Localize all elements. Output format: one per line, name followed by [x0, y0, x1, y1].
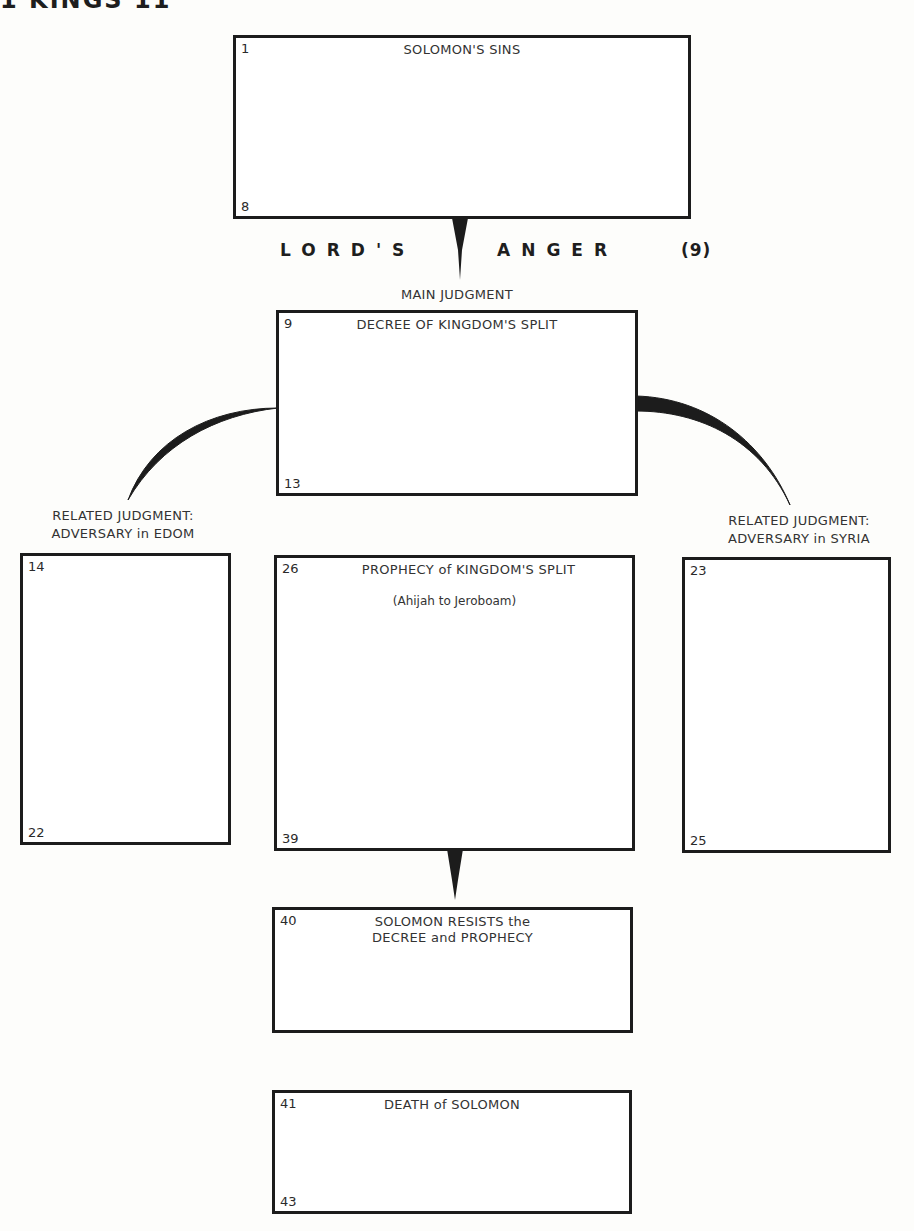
- label-line: RELATED JUDGMENT:: [18, 507, 228, 525]
- box-solomon-resists: 40 SOLOMON RESISTS the DECREE and PROPHE…: [272, 907, 633, 1033]
- box-solomons-sins: 1 SOLOMON'S SINS 8: [233, 35, 691, 219]
- verse-end: 43: [280, 1194, 297, 1209]
- box-title-line: SOLOMON RESISTS the: [275, 914, 630, 930]
- left-curve-arrow: [128, 393, 278, 500]
- label-related-judgment-edom: RELATED JUDGMENT: ADVERSARY in EDOM: [18, 507, 228, 543]
- box-title: DECREE OF KINGDOM'S SPLIT: [279, 317, 635, 332]
- label-line: RELATED JUDGMENT:: [694, 512, 904, 530]
- box-title: DEATH of SOLOMON: [275, 1097, 629, 1112]
- box-subtitle: (Ahijah to Jeroboam): [277, 594, 632, 608]
- box-prophecy-kingdom-split: 26 PROPHECY of KINGDOM'S SPLIT (Ahijah t…: [274, 555, 635, 851]
- right-curve-arrow: [636, 396, 790, 505]
- box-decree-kingdom-split: 9 DECREE OF KINGDOM'S SPLIT 13: [276, 310, 638, 496]
- label-line: ADVERSARY in SYRIA: [694, 530, 904, 548]
- box-adversary-syria: 23 25: [682, 557, 891, 853]
- box-death-of-solomon: 41 DEATH of SOLOMON 43: [272, 1090, 632, 1214]
- verse-end: 13: [284, 476, 301, 491]
- box-adversary-edom: 14 22: [20, 553, 231, 845]
- connector-word-anger: ANGER: [497, 240, 618, 260]
- verse-start: 26: [282, 561, 299, 576]
- label-related-judgment-syria: RELATED JUDGMENT: ADVERSARY in SYRIA: [694, 512, 904, 548]
- verse-end: 25: [690, 833, 707, 848]
- connector-verse-ref: (9): [681, 240, 711, 260]
- verse-end: 8: [241, 199, 249, 214]
- box-title-line: DECREE and PROPHECY: [275, 930, 630, 946]
- down-wedge-arrow-1: [452, 218, 468, 280]
- connector-word-lords: LORD'S: [280, 240, 415, 260]
- box-title: SOLOMON RESISTS the DECREE and PROPHECY: [275, 914, 630, 946]
- verse-start: 14: [28, 559, 45, 574]
- label-main-judgment: MAIN JUDGMENT: [276, 286, 638, 304]
- verse-start: 23: [690, 563, 707, 578]
- label-line: ADVERSARY in EDOM: [18, 525, 228, 543]
- verse-end: 22: [28, 825, 45, 840]
- box-title: PROPHECY of KINGDOM'S SPLIT: [305, 562, 632, 577]
- box-title: SOLOMON'S SINS: [236, 42, 688, 57]
- verse-end: 39: [282, 831, 299, 846]
- down-wedge-arrow-2: [447, 849, 463, 900]
